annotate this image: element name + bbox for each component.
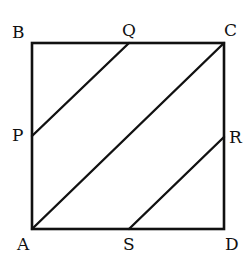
label-q: Q: [122, 20, 136, 40]
label-s: S: [123, 234, 135, 254]
segment-sr: [129, 137, 224, 229]
label-d: D: [225, 234, 239, 254]
label-r: R: [229, 127, 243, 147]
label-p: P: [12, 125, 23, 145]
segment-pq: [32, 43, 129, 136]
diagonal-ac: [32, 43, 224, 229]
label-c: C: [224, 20, 237, 40]
geometry-figure: B Q C P R A S D: [0, 0, 249, 259]
label-b: B: [12, 22, 25, 42]
label-a: A: [16, 234, 30, 254]
